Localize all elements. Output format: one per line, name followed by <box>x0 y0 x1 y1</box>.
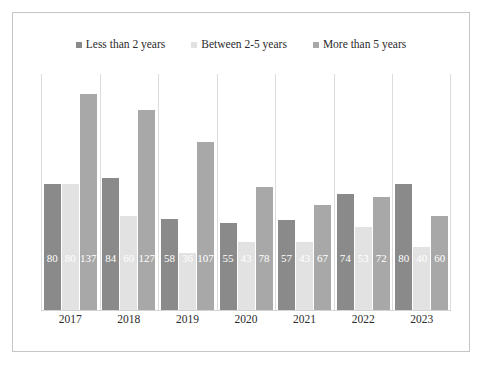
bar-group: 5836107 <box>158 74 217 310</box>
bar-value-label: 80 <box>65 253 76 264</box>
bar[interactable]: 80 <box>62 184 79 310</box>
bar[interactable]: 67 <box>314 205 331 310</box>
bar[interactable]: 60 <box>431 216 448 310</box>
bar[interactable]: 57 <box>278 220 295 310</box>
bar-value-label: 67 <box>317 253 328 264</box>
bar-value-label: 78 <box>259 253 270 264</box>
bar-value-label: 84 <box>105 253 116 264</box>
bar-value-label: 43 <box>299 253 310 264</box>
bar[interactable]: 55 <box>220 223 237 310</box>
group-separator-line <box>41 74 42 310</box>
bar[interactable]: 43 <box>296 242 313 310</box>
legend-swatch-icon <box>313 42 319 48</box>
legend-item[interactable]: More than 5 years <box>313 39 406 51</box>
group-separator-line <box>100 74 101 310</box>
group-separator-line <box>217 74 218 310</box>
bar-value-label: 127 <box>139 253 156 264</box>
group-separator-line <box>392 74 393 310</box>
bar-value-label: 60 <box>123 253 134 264</box>
bar[interactable]: 72 <box>373 197 390 310</box>
bar-value-label: 80 <box>47 253 58 264</box>
bar-groups: 8080137846012758361075543785743677453728… <box>41 74 451 310</box>
bar-group: 8080137 <box>41 74 100 310</box>
bar[interactable]: 40 <box>413 247 430 310</box>
group-separator-line <box>334 74 335 310</box>
bar-value-label: 57 <box>281 253 292 264</box>
bar[interactable]: 58 <box>161 219 178 310</box>
bar-group: 8460127 <box>100 74 159 310</box>
x-axis-labels: 2017201820192020202120222023 <box>41 313 451 325</box>
bar-group: 745372 <box>334 74 393 310</box>
legend-label: More than 5 years <box>323 39 406 51</box>
bar[interactable]: 36 <box>179 253 196 310</box>
bar-group: 574367 <box>275 74 334 310</box>
x-axis-label: 2021 <box>275 313 334 325</box>
chart-legend: Less than 2 yearsBetween 2-5 yearsMore t… <box>13 39 469 51</box>
bar[interactable]: 78 <box>256 187 273 310</box>
x-axis-label: 2017 <box>41 313 100 325</box>
legend-label: Less than 2 years <box>86 39 166 51</box>
bar-value-label: 40 <box>416 253 427 264</box>
bar[interactable]: 80 <box>395 184 412 310</box>
legend-label: Between 2-5 years <box>201 39 287 51</box>
bar[interactable]: 53 <box>355 227 372 310</box>
legend-swatch-icon <box>191 42 197 48</box>
x-axis-line <box>41 310 451 311</box>
bar-value-label: 74 <box>340 253 351 264</box>
group-separator-line <box>158 74 159 310</box>
bar-value-label: 58 <box>164 253 175 264</box>
bar-value-label: 53 <box>358 253 369 264</box>
group-separator-line <box>450 74 451 310</box>
bar-value-label: 55 <box>223 253 234 264</box>
bar-value-label: 60 <box>434 253 445 264</box>
x-axis-label: 2018 <box>100 313 159 325</box>
plot-area: 8080137846012758361075543785743677453728… <box>41 74 451 310</box>
bar[interactable]: 127 <box>138 110 155 310</box>
group-separator-line <box>275 74 276 310</box>
legend-item[interactable]: Between 2-5 years <box>191 39 287 51</box>
bar-value-label: 36 <box>182 253 193 264</box>
x-axis-label: 2020 <box>217 313 276 325</box>
bar-group: 554378 <box>217 74 276 310</box>
x-axis-label: 2022 <box>334 313 393 325</box>
bar[interactable]: 60 <box>120 216 137 310</box>
x-axis-label: 2019 <box>158 313 217 325</box>
bar[interactable]: 80 <box>44 184 61 310</box>
legend-item[interactable]: Less than 2 years <box>76 39 166 51</box>
bar-value-label: 43 <box>241 253 252 264</box>
bar-value-label: 80 <box>398 253 409 264</box>
bar[interactable]: 74 <box>337 194 354 310</box>
chart-frame: Less than 2 yearsBetween 2-5 yearsMore t… <box>12 12 470 352</box>
bar-value-label: 72 <box>376 253 387 264</box>
bar[interactable]: 43 <box>238 242 255 310</box>
bar[interactable]: 107 <box>197 142 214 310</box>
x-axis-label: 2023 <box>392 313 451 325</box>
bar-value-label: 107 <box>197 253 214 264</box>
bar-group: 804060 <box>392 74 451 310</box>
bar[interactable]: 137 <box>80 94 97 310</box>
legend-swatch-icon <box>76 42 82 48</box>
bar-value-label: 137 <box>80 253 97 264</box>
bar[interactable]: 84 <box>102 178 119 310</box>
